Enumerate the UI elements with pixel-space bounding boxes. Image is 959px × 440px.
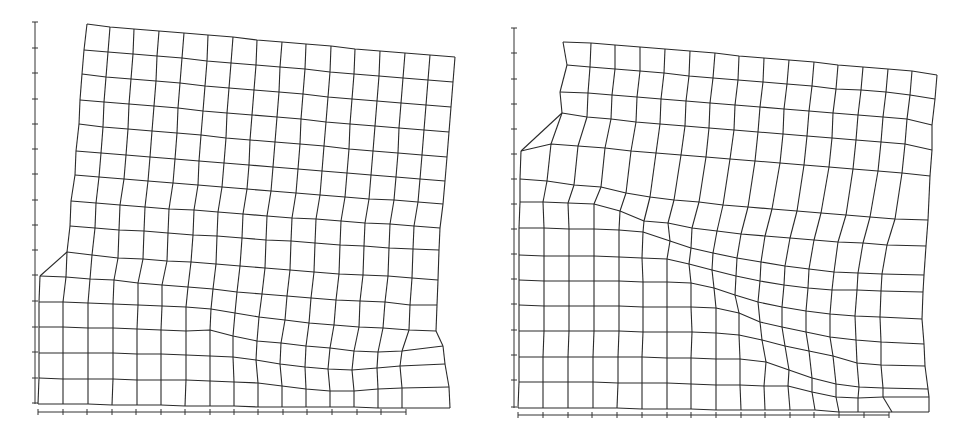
right-mesh-panel — [0, 0, 959, 440]
right-deformed-mesh — [518, 42, 937, 412]
right-y-axis — [511, 28, 517, 408]
right-x-axis — [518, 412, 889, 418]
deformed-mesh-figure — [0, 0, 959, 440]
